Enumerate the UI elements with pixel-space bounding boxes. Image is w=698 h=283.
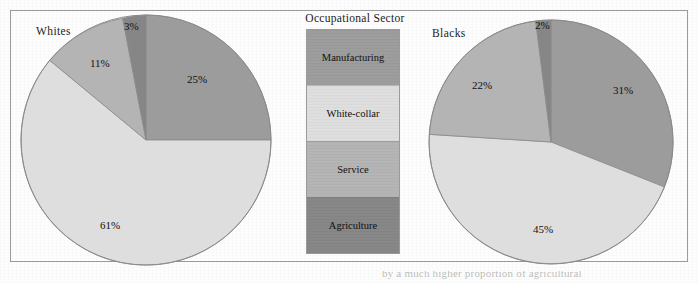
pie-value-whites-service: 11%	[90, 57, 110, 69]
legend-item-agriculture[interactable]: Agriculture	[307, 197, 399, 253]
legend-item-service[interactable]: Service	[307, 141, 399, 197]
legend-label-agriculture: Agriculture	[329, 220, 377, 231]
pie-value-blacks-agriculture: 2%	[535, 19, 550, 31]
pie-value-blacks-service: 22%	[472, 79, 492, 91]
legend-panel: Occupational Sector Manufacturing White-…	[300, 0, 410, 283]
legend-item-white-collar[interactable]: White-collar	[307, 85, 399, 141]
pie-value-whites-white-collar: 61%	[100, 219, 120, 231]
scan-bleed-text: by a much higher proportion of agricultu…	[382, 271, 582, 279]
pie-slice-whites-manufacturing[interactable]	[146, 15, 271, 140]
legend-swatch-box: Manufacturing White-collar Service Agric…	[306, 29, 400, 254]
pie-value-whites-agriculture: 3%	[124, 20, 139, 32]
legend-title: Occupational Sector	[303, 12, 407, 24]
pie-value-whites-manufacturing: 25%	[187, 73, 207, 85]
pie-chart-whites	[20, 14, 272, 266]
scan-bleed-strip: by a much higher proportion of agricultu…	[0, 271, 698, 283]
pie-value-blacks-white-collar: 45%	[533, 223, 553, 235]
legend-item-manufacturing[interactable]: Manufacturing	[307, 30, 399, 85]
pie-panel-whites: Whites 25% 61% 11% 3%	[0, 0, 300, 283]
legend-label-manufacturing: Manufacturing	[322, 52, 384, 63]
legend-label-service: Service	[337, 164, 369, 175]
pie-value-blacks-manufacturing: 31%	[613, 84, 633, 96]
pie-chart-whites-svg	[20, 14, 272, 266]
pie-panel-blacks: Blacks 31% 45% 22% 2%	[410, 0, 698, 283]
legend-label-white-collar: White-collar	[326, 108, 379, 119]
